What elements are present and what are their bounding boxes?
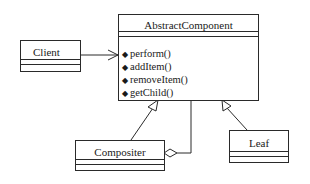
class-name: Leaf xyxy=(230,131,288,152)
class-name: Client xyxy=(21,41,80,60)
generalization-compositer xyxy=(131,100,158,140)
class-name: Compositer xyxy=(76,141,164,160)
operation-perform: ◆perform() xyxy=(119,48,258,61)
operation-remove-item: ◆removeItem() xyxy=(119,74,258,87)
operation-add-item: ◆addItem() xyxy=(119,61,258,74)
hollow-triangle-icon xyxy=(148,100,158,111)
attributes-compartment xyxy=(230,152,288,157)
diamond-bullet-icon: ◆ xyxy=(122,88,129,100)
aggregation-compositer-to-component xyxy=(164,100,191,157)
uml-diagram-canvas: AbstractComponent ◆perform() ◆addItem() … xyxy=(0,0,310,184)
class-leaf[interactable]: Leaf xyxy=(229,130,289,163)
diamond-bullet-icon: ◆ xyxy=(122,49,129,61)
diamond-bullet-icon: ◆ xyxy=(122,62,129,74)
class-client[interactable]: Client xyxy=(20,40,81,72)
class-compositer[interactable]: Compositer xyxy=(75,140,165,171)
diamond-bullet-icon: ◆ xyxy=(122,75,129,87)
attributes-compartment xyxy=(76,160,164,165)
hollow-diamond-icon xyxy=(164,149,177,157)
operation-get-child: ◆getChild() xyxy=(119,87,258,100)
class-abstract-component[interactable]: AbstractComponent ◆perform() ◆addItem() … xyxy=(118,14,259,101)
hollow-triangle-icon xyxy=(222,100,231,111)
association-client-to-component xyxy=(80,50,118,60)
generalization-leaf xyxy=(222,100,247,130)
operations-compartment: ◆perform() ◆addItem() ◆removeItem() ◆get… xyxy=(119,37,258,100)
class-name: AbstractComponent xyxy=(119,15,258,32)
attributes-compartment xyxy=(21,60,80,65)
